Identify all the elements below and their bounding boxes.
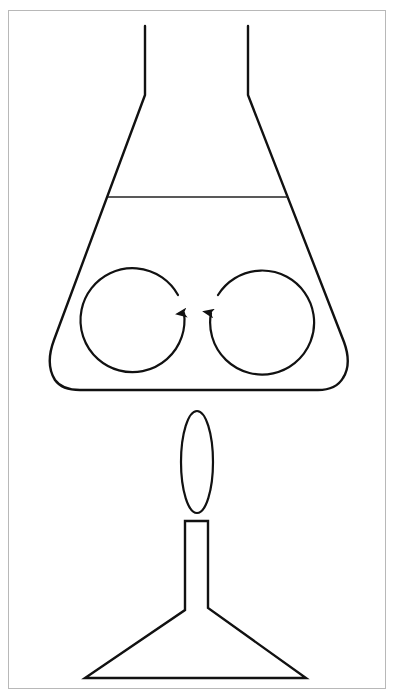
frame-border <box>9 11 386 689</box>
flask-outline <box>50 26 348 390</box>
convection-loop-right-icon <box>210 271 314 375</box>
bunsen-burner <box>85 521 306 678</box>
flame-icon <box>181 411 213 513</box>
convection-loop-left-icon <box>80 268 184 372</box>
diagram-canvas <box>0 0 394 693</box>
convection-arrows <box>80 268 314 374</box>
conical-flask <box>50 26 348 390</box>
